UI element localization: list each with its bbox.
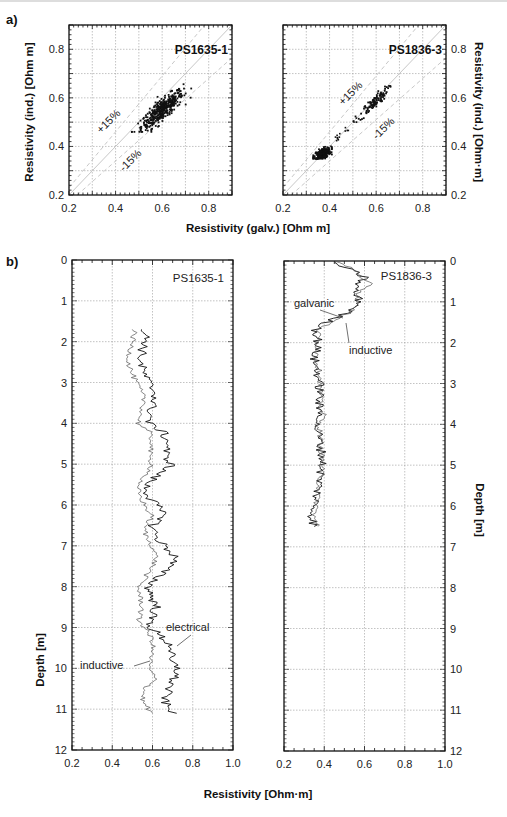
annotation-inductive-right-leader [346, 323, 349, 343]
y-tick-label: 12 [450, 745, 462, 757]
series-inductive [127, 329, 159, 713]
profile-left-y-axis-title: Depth [m] [34, 633, 46, 687]
y-tick-label: 3 [450, 378, 456, 390]
y-tick-label: 7 [450, 541, 456, 553]
y-tick-label: 8 [450, 582, 456, 594]
annotation-galvanic-leader [320, 310, 343, 318]
panel-a-tag: a) [6, 12, 18, 27]
y-tick-label: 8 [61, 581, 67, 593]
x-tick-label: 0.8 [415, 202, 430, 214]
depth-profile-ps1836-3: 0.20.40.60.81.00123456789101112 [276, 255, 462, 770]
y-tick-label: 5 [450, 459, 456, 471]
y-tick-label: 1 [61, 295, 67, 307]
y-tick-label: 0.6 [451, 92, 466, 104]
y-tick-label: 2 [450, 337, 456, 349]
y-tick-label: 0.8 [49, 43, 64, 55]
x-tick-label: 0.4 [105, 757, 120, 769]
y-tick-label: 10 [55, 662, 67, 674]
scatter-x-axis-title: Resistivity (galv.) [Ohm m] [186, 222, 330, 234]
figure: a) b) 0.20.40.60.80.20.40.60.8 0.20.40.6… [0, 0, 507, 817]
annotation-galvanic: galvanic [294, 297, 335, 309]
y-tick-label: 0.4 [451, 140, 466, 152]
minus15-label-left: -15% [117, 147, 144, 174]
x-tick-label: 0.2 [64, 757, 79, 769]
y-tick-label: 12 [55, 744, 67, 756]
x-tick-label: 0.4 [317, 758, 332, 770]
y-tick-label: 0.8 [451, 43, 466, 55]
x-tick-label: 0.2 [275, 202, 290, 214]
annotation-electrical: electrical [166, 621, 209, 633]
scatter-left-y-axis-title: Resistivity (ind.) [Ohm m] [23, 42, 35, 181]
annotation-inductive-left: inductive [80, 659, 123, 671]
x-tick-label: 0.8 [185, 757, 200, 769]
y-tick-label: 0 [61, 254, 67, 266]
x-tick-label: 0.8 [397, 758, 412, 770]
panel-b-tag: b) [6, 254, 18, 269]
x-tick-label: 0.2 [276, 758, 291, 770]
y-tick-label: 7 [61, 540, 67, 552]
minus15-label-right: -15% [370, 115, 397, 142]
y-tick-label: 9 [61, 622, 67, 634]
x-tick-label: 0.8 [201, 202, 216, 214]
y-tick-label: 9 [450, 623, 456, 635]
depth-profile-ps1635-1: 0.20.40.60.81.00123456789101112 [55, 254, 241, 769]
x-tick-label: 1.0 [225, 757, 240, 769]
series-electrical [138, 329, 180, 713]
x-tick-label: 1.0 [437, 758, 452, 770]
y-tick-label: 11 [450, 704, 461, 716]
y-tick-label: 4 [61, 417, 67, 429]
y-tick-label: 11 [56, 703, 67, 715]
y-tick-label: 10 [450, 663, 462, 675]
y-tick-label: 3 [61, 377, 67, 389]
scatter-right-title: PS1836-3 [389, 43, 443, 57]
x-tick-label: 0.6 [154, 202, 169, 214]
y-tick-label: 5 [61, 458, 67, 470]
x-tick-label: 0.6 [145, 757, 160, 769]
y-tick-label: 4 [450, 418, 456, 430]
x-tick-label: 0.4 [322, 202, 337, 214]
scatter-left-title: PS1635-1 [175, 43, 229, 57]
x-tick-label: 0.2 [61, 202, 76, 214]
y-tick-label: 0.4 [49, 140, 64, 152]
x-tick-label: 0.4 [108, 202, 123, 214]
y-tick-label: 6 [450, 500, 456, 512]
y-tick-label: 0.2 [49, 189, 64, 201]
plus15-label-left: +15% [94, 107, 123, 136]
profile-left-title: PS1635-1 [173, 272, 224, 284]
annotation-inductive-left-leader [134, 661, 150, 666]
x-tick-label: 0.6 [357, 758, 372, 770]
y-tick-label: 0.2 [451, 189, 466, 201]
profile-x-axis-title: Resistivity [Ohm·m] [204, 788, 313, 800]
y-tick-label: 1 [450, 296, 456, 308]
plus15-label-right: +15% [336, 79, 365, 108]
profile-right-title: PS1836-3 [381, 270, 432, 282]
y-tick-label: 0 [450, 255, 456, 267]
y-tick-label: 6 [61, 499, 67, 511]
x-tick-label: 0.6 [368, 202, 383, 214]
annotation-inductive-right: inductive [349, 344, 392, 356]
scatter-right-y-axis-title: Resistivity (ind.) [Ohm·m] [473, 42, 485, 182]
annotation-electrical-leader [177, 635, 191, 646]
y-tick-label: 0.6 [49, 92, 64, 104]
profile-right-y-axis-title: Depth [m] [474, 483, 486, 537]
y-tick-label: 2 [61, 336, 67, 348]
